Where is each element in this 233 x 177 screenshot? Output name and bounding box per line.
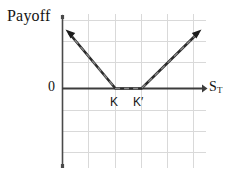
origin-label: 0 [48,80,55,94]
payoff-chart-canvas [0,0,233,177]
strike-upper-label: K′ [133,96,143,108]
grid-horizontal-lines [62,21,206,153]
x-axis-title-base: S [209,79,217,94]
payoff-diagram-figure: Payoff 0 ST K K′ [0,0,233,177]
x-axis-title: ST [209,80,222,95]
grid-lines [62,14,206,168]
grid-vertical-lines [63,14,194,168]
strike-lower-label: K [110,96,118,108]
x-axis-title-subscript: T [217,85,223,95]
y-axis-title: Payoff [7,8,51,24]
